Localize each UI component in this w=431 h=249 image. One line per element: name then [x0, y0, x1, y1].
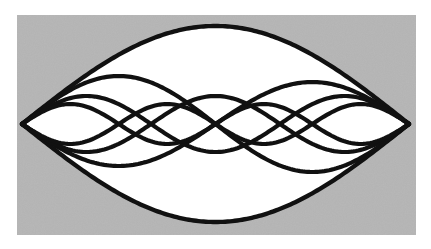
string-modes-diagram: [0, 0, 431, 249]
